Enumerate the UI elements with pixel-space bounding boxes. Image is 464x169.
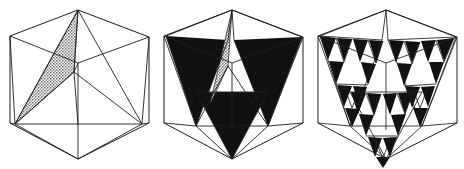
figure-panel-stage-1	[156, 0, 308, 169]
stage-0-drawing	[2, 0, 154, 169]
figure-plate	[0, 0, 464, 169]
figure-panel-stage-2	[310, 0, 462, 169]
stage-1-drawing	[156, 0, 308, 169]
figure-panel-stage-0	[2, 0, 154, 169]
stage-2-wireframe	[318, 10, 457, 159]
stage-2-drawing	[310, 0, 462, 169]
stage-0-wireframe	[10, 10, 149, 159]
